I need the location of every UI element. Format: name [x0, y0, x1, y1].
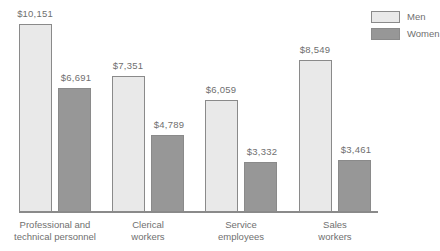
bar-men-2: [112, 76, 145, 212]
bar-men-4: [299, 60, 332, 212]
legend-label-men: Men: [407, 11, 425, 22]
bar-value-label-men-2: $7,351: [107, 60, 149, 71]
category-label-3: Service employees: [191, 219, 291, 242]
legend-label-women: Women: [407, 28, 440, 39]
category-label-2-line2: workers: [98, 231, 198, 243]
bar-women-4: [338, 160, 371, 212]
bar-value-label-men-3: $6,059: [200, 84, 242, 95]
legend-swatch-men: [371, 11, 400, 23]
bar-value-label-women-4: $3,461: [335, 144, 377, 155]
bar-value-label-women-1: $6,691: [55, 72, 97, 83]
legend-item-men: Men: [371, 10, 440, 23]
chart-legend: Men Women: [371, 10, 440, 44]
category-label-4: Sales workers: [285, 219, 385, 242]
legend-swatch-women: [371, 28, 400, 40]
bar-women-3: [244, 162, 277, 212]
bar-value-label-men-4: $8,549: [294, 44, 336, 55]
bar-value-label-women-2: $4,789: [148, 119, 190, 130]
bar-men-1: [19, 24, 52, 212]
category-label-1-line1: Professional and: [20, 219, 91, 230]
category-label-3-line2: employees: [191, 231, 291, 243]
legend-item-women: Women: [371, 27, 440, 40]
bar-value-label-women-3: $3,332: [241, 146, 283, 157]
category-label-4-line1: Sales: [323, 219, 347, 230]
bar-men-3: [205, 100, 238, 212]
bar-women-2: [151, 135, 184, 212]
category-label-1-line2: technical personnel: [5, 231, 105, 243]
category-label-3-line1: Service: [225, 219, 257, 230]
bar-women-1: [58, 88, 91, 212]
category-label-2-line1: Clerical: [132, 219, 164, 230]
bar-chart: $10,151 $6,691 Professional and technica…: [0, 0, 440, 251]
bar-value-label-men-1: $10,151: [12, 8, 58, 19]
category-label-1: Professional and technical personnel: [5, 219, 105, 242]
category-label-4-line2: workers: [285, 231, 385, 243]
category-label-2: Clerical workers: [98, 219, 198, 242]
